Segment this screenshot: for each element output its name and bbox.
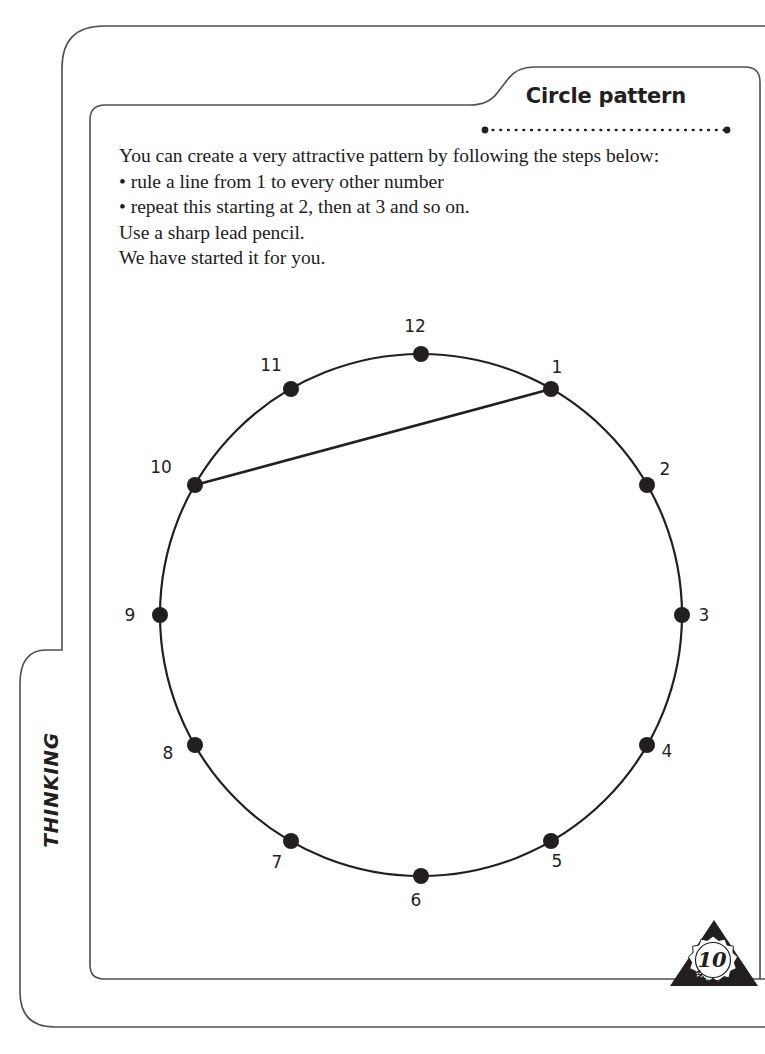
point-label-5: 5	[552, 851, 563, 871]
point-label-3: 3	[699, 605, 710, 625]
circle-pattern-diagram[interactable]: 123456789101112	[0, 0, 765, 1054]
point-label-11: 11	[260, 355, 282, 375]
circle-points[interactable]	[152, 346, 690, 884]
circle-point-1[interactable]	[543, 381, 559, 397]
point-label-8: 8	[163, 743, 174, 763]
circle-point-labels: 123456789101112	[125, 316, 710, 910]
circle-point-4[interactable]	[639, 737, 655, 753]
circle-point-2[interactable]	[639, 477, 655, 493]
circle-point-7[interactable]	[283, 833, 299, 849]
point-label-7: 7	[272, 852, 283, 872]
point-label-2: 2	[660, 459, 671, 479]
worksheet-page: Circle pattern THINKING You can create a…	[0, 0, 765, 1054]
point-label-9: 9	[125, 605, 136, 625]
circle-point-9[interactable]	[152, 607, 168, 623]
circle-point-12[interactable]	[413, 346, 429, 362]
drawn-chords	[195, 389, 551, 485]
circle-outline	[160, 354, 682, 876]
badge-number: 10	[697, 947, 727, 972]
circle-point-10[interactable]	[187, 477, 203, 493]
circle-point-11[interactable]	[283, 381, 299, 397]
point-label-10: 10	[150, 457, 172, 477]
point-label-12: 12	[404, 316, 426, 336]
circle-point-8[interactable]	[187, 737, 203, 753]
point-label-6: 6	[411, 890, 422, 910]
circle-point-5[interactable]	[543, 833, 559, 849]
circle-point-3[interactable]	[674, 607, 690, 623]
circle-point-6[interactable]	[413, 868, 429, 884]
point-label-1: 1	[552, 357, 563, 377]
chord-10-to-1	[195, 389, 551, 485]
timer-badge: 10 MINUTES	[668, 918, 760, 990]
point-label-4: 4	[662, 741, 673, 761]
